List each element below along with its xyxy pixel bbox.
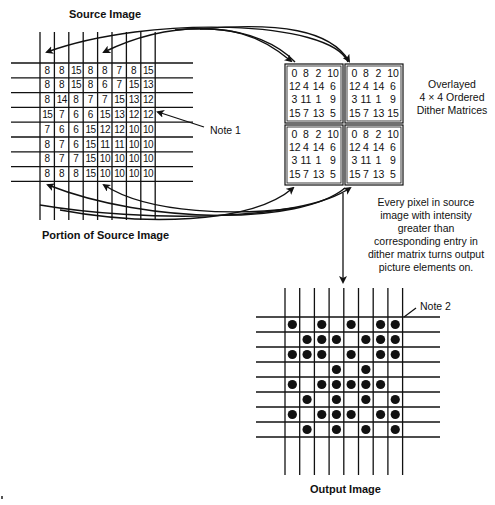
source-pixel-value: 7 <box>84 93 98 107</box>
dither-matrix-row: 124146 <box>289 80 341 92</box>
dither-threshold-value: 13 <box>372 168 385 180</box>
source-pixel-value: 10 <box>141 138 155 152</box>
rule-caption-line: picture elements on. <box>358 261 494 274</box>
source-pixel-value: 15 <box>84 138 98 152</box>
note2-label: Note 2 <box>420 300 451 312</box>
dither-threshold-value: 12 <box>349 141 360 153</box>
output-pixel-on-dot <box>288 350 297 359</box>
overlay-caption: Overlayed 4 × 4 Ordered Dither Matrices <box>412 78 492 117</box>
source-pixel-value: 14 <box>55 93 69 107</box>
source-pixel-value: 7 <box>55 108 69 122</box>
rule-caption-line: dither matrix turns output <box>358 248 494 261</box>
source-pixel-value: 8 <box>40 167 54 181</box>
source-pixel-value: 15 <box>127 78 141 92</box>
source-pixel-value: 7 <box>98 93 112 107</box>
source-pixel-value: 10 <box>98 152 112 166</box>
output-pixel-on-dot <box>376 350 385 359</box>
output-pixel-on-dot <box>332 425 341 434</box>
scan-mark <box>1 496 3 499</box>
source-pixel-value: 8 <box>55 167 69 181</box>
source-pixel-value: 13 <box>141 78 155 92</box>
note1-label: Note 1 <box>210 124 241 136</box>
dither-threshold-value: 3 <box>289 93 300 105</box>
output-pixel-on-dot <box>302 350 311 359</box>
source-pixel-value: 15 <box>84 123 98 137</box>
rule-caption: Every pixel in source image with intensi… <box>358 196 494 274</box>
source-pixel-value: 7 <box>112 78 126 92</box>
dither-threshold-value: 10 <box>385 128 401 140</box>
dither-threshold-value: 11 <box>360 154 372 166</box>
dither-threshold-value: 1 <box>312 154 325 166</box>
source-pixel-value: 12 <box>112 123 126 137</box>
source-pixel-value: 8 <box>40 64 54 78</box>
dither-threshold-value: 4 <box>300 141 312 153</box>
output-pixel-on-dot <box>317 335 326 344</box>
source-pixel-value: 10 <box>127 152 141 166</box>
dither-threshold-value: 10 <box>385 67 401 79</box>
arrow-icon <box>40 188 350 216</box>
output-pixel-on-dot <box>361 425 370 434</box>
source-pixel-value: 6 <box>84 108 98 122</box>
output-pixel-on-dot <box>332 335 341 344</box>
dither-threshold-value: 5 <box>325 168 341 180</box>
portion-of-source-image-label: Portion of Source Image <box>42 229 169 241</box>
dither-threshold-value: 7 <box>300 107 312 119</box>
source-pixel-value: 12 <box>141 108 155 122</box>
dither-matrix-row: 08210 <box>349 67 401 79</box>
dither-matrix-row: 157135 <box>289 168 341 180</box>
dither-matrix-row: 157135 <box>349 168 401 180</box>
source-pixel-value: 10 <box>141 167 155 181</box>
overlay-caption-line: 4 × 4 Ordered <box>412 91 492 104</box>
source-pixel-value: 8 <box>40 78 54 92</box>
dither-threshold-value: 8 <box>360 128 372 140</box>
source-pixel-value: 7 <box>55 152 69 166</box>
output-pixel-on-dot <box>302 395 311 404</box>
source-pixel-value: 13 <box>127 93 141 107</box>
dither-threshold-value: 7 <box>360 168 372 180</box>
dither-matrix-row: 08210 <box>289 67 341 79</box>
source-pixel-value: 7 <box>69 152 83 166</box>
output-pixel-on-dot <box>361 335 370 344</box>
output-pixel-on-dot <box>376 320 385 329</box>
dither-threshold-value: 9 <box>325 93 341 105</box>
arrow-icon <box>60 188 293 219</box>
dither-threshold-value: 7 <box>360 107 372 119</box>
source-pixel-value: 10 <box>141 152 155 166</box>
dither-threshold-value: 7 <box>300 168 312 180</box>
dither-threshold-value: 13 <box>312 168 325 180</box>
source-pixel-value: 11 <box>112 138 126 152</box>
dither-threshold-value: 10 <box>325 67 341 79</box>
dither-threshold-value: 13 <box>372 107 385 119</box>
dither-matrix-row: 31119 <box>289 154 341 166</box>
dither-matrix-row: 31119 <box>289 93 341 105</box>
source-pixel-value: 11 <box>98 138 112 152</box>
source-pixel-value: 8 <box>40 93 54 107</box>
output-pixel-on-dot <box>361 380 370 389</box>
output-pixel-on-dot <box>288 380 297 389</box>
source-pixel-value: 8 <box>55 78 69 92</box>
source-pixel-value: 8 <box>127 64 141 78</box>
source-pixel-value: 8 <box>40 138 54 152</box>
dither-threshold-value: 3 <box>289 154 300 166</box>
output-pixel-on-dot <box>391 395 400 404</box>
output-pixel-on-dot <box>376 380 385 389</box>
output-pixel-on-dot <box>302 425 311 434</box>
source-pixel-value: 15 <box>84 152 98 166</box>
dither-threshold-value: 3 <box>349 154 360 166</box>
source-pixel-value: 15 <box>69 64 83 78</box>
dither-threshold-value: 6 <box>325 141 341 153</box>
output-pixel-on-dot <box>347 410 356 419</box>
dither-threshold-value: 0 <box>349 128 360 140</box>
source-pixel-value: 6 <box>69 123 83 137</box>
source-pixel-value: 10 <box>127 123 141 137</box>
source-image-title: Source Image <box>69 8 141 20</box>
dither-matrix-row: 08210 <box>349 128 401 140</box>
dither-threshold-value: 14 <box>312 141 325 153</box>
rule-caption-line: greater than <box>358 222 494 235</box>
source-pixel-value: 13 <box>112 108 126 122</box>
dither-threshold-value: 15 <box>289 168 300 180</box>
dither-threshold-value: 12 <box>349 80 360 92</box>
dither-threshold-value: 5 <box>325 107 341 119</box>
output-pixel-on-dot <box>376 410 385 419</box>
overlay-caption-line: Overlayed <box>412 78 492 91</box>
